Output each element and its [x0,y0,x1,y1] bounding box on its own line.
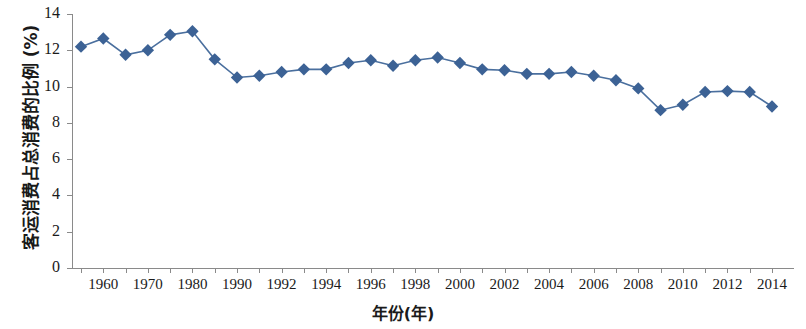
x-tick [103,268,104,273]
data-point-marker [498,64,510,76]
x-tick [616,268,617,273]
x-axis-line [72,268,794,269]
x-tick-label: 1980 [168,276,216,293]
x-tick-label: 1990 [213,276,261,293]
x-tick [482,268,483,273]
data-point-marker [610,74,622,86]
data-point-marker [342,57,354,69]
x-tick-label: 2010 [659,276,707,293]
x-tick [527,268,528,273]
x-tick-label: 1996 [347,276,395,293]
y-tick-label: 6 [16,149,60,167]
data-point-marker [75,40,87,52]
x-tick [126,268,127,273]
x-tick [727,268,728,273]
y-tick-label: 10 [16,77,60,95]
data-point-marker [744,86,756,98]
x-tick-label: 2008 [614,276,662,293]
x-tick-label: 2006 [570,276,618,293]
x-tick [683,268,684,273]
x-tick [661,268,662,273]
data-point-marker [454,57,466,69]
data-point-marker [387,60,399,72]
data-point-marker [587,69,599,81]
x-tick-label: 1994 [302,276,350,293]
x-tick [237,268,238,273]
x-tick [571,268,572,273]
y-tick-label: 2 [16,222,60,240]
x-tick [215,268,216,273]
x-tick [750,268,751,273]
x-tick [170,268,171,273]
data-point-marker [677,99,689,111]
y-tick-label: 0 [16,258,60,276]
x-tick [304,268,305,273]
x-tick [282,268,283,273]
plot-area: 02468101214 1960197019801990199219941996… [72,14,794,268]
x-tick-label: 2000 [436,276,484,293]
data-point-marker [699,86,711,98]
x-tick [460,268,461,273]
series-line [81,31,772,110]
x-tick [549,268,550,273]
x-tick-label: 1998 [391,276,439,293]
y-tick-label: 4 [16,185,60,203]
x-tick [81,268,82,273]
data-point-marker [275,66,287,78]
x-tick [415,268,416,273]
data-series-line [72,14,794,268]
data-point-marker [97,32,109,44]
x-axis-title: 年份(年) [0,300,806,324]
y-tick [67,268,72,269]
x-tick-label: 1960 [79,276,127,293]
x-tick [438,268,439,273]
x-tick [505,268,506,273]
data-point-marker [253,69,265,81]
data-point-marker [142,44,154,56]
x-tick [192,268,193,273]
data-point-marker [766,100,778,112]
y-tick-label: 8 [16,113,60,131]
data-point-marker [119,49,131,61]
data-point-marker [431,51,443,63]
x-tick-label: 2002 [481,276,529,293]
x-tick [371,268,372,273]
data-point-marker [721,85,733,97]
x-tick-label: 2004 [525,276,573,293]
data-point-marker [320,63,332,75]
x-tick [705,268,706,273]
x-tick-label: 2012 [703,276,751,293]
x-tick-label: 1970 [124,276,172,293]
y-tick-label: 14 [16,4,60,22]
x-tick [594,268,595,273]
x-tick [638,268,639,273]
data-point-marker [476,63,488,75]
x-tick [393,268,394,273]
data-point-marker [521,68,533,80]
x-tick [259,268,260,273]
x-tick [326,268,327,273]
x-tick [772,268,773,273]
y-tick-label: 12 [16,40,60,58]
data-point-marker [543,68,555,80]
data-point-marker [565,66,577,78]
data-point-marker [365,54,377,66]
data-point-marker [298,63,310,75]
x-tick-label: 1992 [258,276,306,293]
data-point-marker [409,54,421,66]
x-tick [148,268,149,273]
x-tick-label: 2014 [748,276,796,293]
data-point-marker [164,29,176,41]
chart-canvas: 客运消费占总消费的比例 (%) 02468101214 196019701980… [0,0,806,329]
x-tick [348,268,349,273]
